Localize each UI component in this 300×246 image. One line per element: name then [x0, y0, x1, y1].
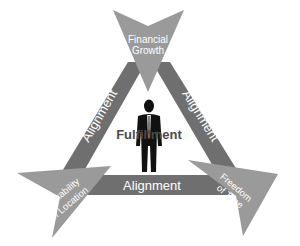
top-node-label-line1: Financial [128, 34, 168, 45]
center-label: Fulfillment [116, 127, 182, 142]
alignment-triangle-diagram: Alignment Alignment Alignment Financial … [0, 0, 300, 246]
bottom-edge-label: Alignment [123, 178, 181, 193]
top-node-label-line2: Growth [132, 45, 164, 56]
